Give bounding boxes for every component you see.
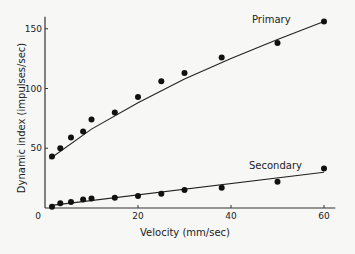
series-label-secondary: Secondary — [249, 160, 302, 171]
data-point — [57, 200, 63, 206]
y-axis-label: Dynamic index (impulses/sec) — [16, 43, 27, 194]
chart: 020406050100150 Velocity (mm/sec) Dynami… — [0, 0, 355, 254]
series-secondary — [49, 166, 327, 210]
x-tick-label: 0 — [35, 211, 41, 221]
data-point — [49, 204, 55, 210]
data-point — [89, 195, 95, 201]
y-tick-label: 100 — [25, 84, 42, 94]
data-point — [135, 193, 141, 199]
x-tick-label: 40 — [225, 211, 237, 221]
data-point — [182, 187, 188, 193]
data-point — [80, 129, 86, 135]
series-layer — [49, 19, 327, 210]
y-tick-label: 50 — [31, 143, 43, 153]
data-point — [321, 166, 327, 172]
data-point — [112, 195, 118, 201]
data-point — [219, 185, 225, 191]
data-point — [112, 109, 118, 115]
data-point — [275, 179, 281, 185]
x-tick-label: 60 — [318, 211, 330, 221]
data-point — [135, 94, 141, 100]
data-point — [321, 19, 327, 25]
data-point — [158, 191, 164, 197]
x-axis-label: Velocity (mm/sec) — [140, 227, 230, 238]
data-point — [68, 135, 74, 141]
series-label-primary: Primary — [252, 14, 291, 25]
fit-line-primary — [50, 22, 324, 159]
axes: 020406050100150 — [25, 17, 335, 221]
data-point — [89, 117, 95, 123]
data-point — [275, 40, 281, 46]
data-point — [219, 54, 225, 60]
data-point — [158, 78, 164, 84]
data-point — [80, 197, 86, 203]
data-point — [68, 199, 74, 205]
data-point — [49, 154, 55, 160]
data-point — [182, 70, 188, 76]
y-tick-label: 150 — [25, 24, 42, 34]
series-primary — [49, 19, 327, 160]
x-tick-label: 20 — [132, 211, 144, 221]
data-point — [57, 145, 63, 151]
